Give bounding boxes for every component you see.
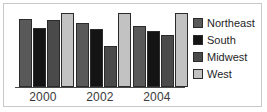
legend-label-northeast: Northeast	[207, 17, 255, 29]
bar-midwest-2000[interactable]	[47, 20, 60, 87]
bar-northeast-2002[interactable]	[76, 23, 89, 87]
legend-swatch-northeast-icon	[193, 18, 203, 28]
bar-west-2004[interactable]	[175, 13, 188, 87]
legend-swatch-west-icon	[193, 69, 203, 79]
x-tick-2004: 2004	[129, 90, 185, 104]
legend-item-south[interactable]: South	[193, 32, 259, 48]
x-axis-tick-labels: 2000 2002 2004	[15, 90, 185, 106]
legend-item-northeast[interactable]: Northeast	[193, 15, 259, 31]
legend-swatch-midwest-icon	[193, 52, 203, 62]
bar-series-layer	[15, 13, 185, 87]
legend-item-midwest[interactable]: Midwest	[193, 49, 259, 65]
bar-west-2000[interactable]	[61, 13, 74, 87]
bar-midwest-2002[interactable]	[104, 46, 117, 87]
bar-northeast-2004[interactable]	[133, 26, 146, 87]
bar-group-2004	[133, 13, 188, 87]
bar-group-2002	[76, 13, 131, 87]
legend-label-west: West	[207, 68, 232, 80]
x-axis-line	[15, 87, 185, 88]
x-tick-2002: 2002	[72, 90, 128, 104]
x-tick-2000: 2000	[15, 90, 71, 104]
bar-south-2004[interactable]	[147, 31, 160, 87]
legend-item-west[interactable]: West	[193, 66, 259, 82]
bar-south-2000[interactable]	[33, 28, 46, 87]
bar-midwest-2004[interactable]	[161, 35, 174, 87]
chart-legend: Northeast South Midwest West	[193, 15, 259, 83]
legend-label-south: South	[207, 34, 236, 46]
bar-south-2002[interactable]	[90, 29, 103, 87]
bar-northeast-2000[interactable]	[19, 19, 32, 87]
bar-group-2000	[19, 13, 74, 87]
chart-card: 2000 2002 2004 Northeast South Midwest W…	[3, 3, 262, 107]
legend-label-midwest: Midwest	[207, 51, 247, 63]
bar-west-2002[interactable]	[118, 13, 131, 87]
legend-swatch-south-icon	[193, 35, 203, 45]
plot-area: 2000 2002 2004	[15, 13, 185, 91]
